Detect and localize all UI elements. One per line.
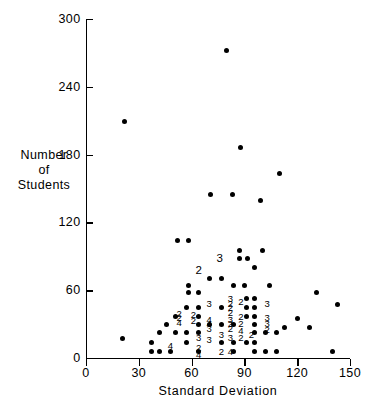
data-point <box>314 290 319 295</box>
y-axis-title-line-3: Students <box>6 178 82 193</box>
x-tick-label-30: 30 <box>131 367 146 380</box>
y-tick-label-240: 240 <box>58 81 80 94</box>
data-point <box>208 192 213 197</box>
x-tick-120: 120 <box>297 359 298 366</box>
y-tick-label-120: 120 <box>58 216 80 229</box>
overlap-count-label: 2 <box>191 316 196 326</box>
data-point <box>244 305 249 310</box>
data-point <box>186 238 191 243</box>
overlap-count-label: 4 <box>228 348 233 358</box>
x-tick-0: 0 <box>86 359 87 366</box>
data-point <box>263 349 268 354</box>
data-point <box>330 349 335 354</box>
data-point <box>277 171 282 176</box>
overlap-count-label: 2 <box>265 325 270 335</box>
data-point <box>274 330 279 335</box>
x-tick-label-90: 90 <box>237 367 252 380</box>
data-point <box>242 283 247 288</box>
data-point <box>184 330 189 335</box>
y-tick-label-180: 180 <box>58 148 80 161</box>
y-tick-120: 120 <box>86 222 93 223</box>
data-point <box>307 325 312 330</box>
x-tick-label-150: 150 <box>339 367 361 380</box>
data-point <box>244 296 249 301</box>
y-axis-title-line-2: of <box>6 163 82 178</box>
y-tick-label-0: 0 <box>73 352 80 365</box>
data-point <box>196 314 201 319</box>
data-point <box>164 322 169 327</box>
plot-area: 060120180240300 0306090120150 3233222232… <box>86 19 350 358</box>
overlap-count-label: 3 <box>265 299 270 309</box>
data-point <box>252 349 257 354</box>
data-point <box>252 314 257 319</box>
overlap-count-label: 3 <box>219 331 224 341</box>
scatter-plot-figure: Number of Students Standard Deviation 06… <box>0 0 366 406</box>
data-point <box>219 305 224 310</box>
data-point <box>196 322 201 327</box>
overlap-count-label: 2 <box>195 265 201 277</box>
data-point <box>186 283 191 288</box>
overlap-count-label: 3 <box>207 299 212 309</box>
y-tick-60: 60 <box>86 290 93 291</box>
y-tick-label-60: 60 <box>66 284 81 297</box>
data-point <box>196 305 201 310</box>
data-point <box>149 349 154 354</box>
x-tick-90: 90 <box>244 359 245 366</box>
data-point <box>238 145 243 150</box>
data-point <box>244 314 249 319</box>
overlap-count-label: 4 <box>177 318 182 328</box>
data-point <box>231 283 236 288</box>
data-point <box>186 290 191 295</box>
data-point <box>219 322 224 327</box>
data-point <box>149 340 154 345</box>
x-tick-label-60: 60 <box>184 367 199 380</box>
y-tick-label-300: 300 <box>58 13 80 26</box>
x-axis-line <box>86 358 350 359</box>
data-point <box>196 290 201 295</box>
data-point <box>122 119 127 124</box>
data-point <box>274 349 279 354</box>
x-tick-label-120: 120 <box>286 367 308 380</box>
data-point <box>184 305 189 310</box>
y-tick-240: 240 <box>86 87 93 88</box>
data-point <box>335 302 340 307</box>
data-point <box>252 322 257 327</box>
overlap-count-label: 2 <box>238 297 243 307</box>
data-point <box>260 248 265 253</box>
data-point <box>157 349 162 354</box>
x-tick-150: 150 <box>350 359 351 366</box>
data-point <box>175 238 180 243</box>
data-point <box>157 330 162 335</box>
data-point <box>237 256 242 261</box>
overlap-count-label: 2 <box>238 333 243 343</box>
data-point <box>252 265 257 270</box>
data-point <box>184 340 189 345</box>
data-point <box>237 248 242 253</box>
x-tick-60: 60 <box>192 359 193 366</box>
data-point <box>258 198 263 203</box>
data-point <box>282 325 287 330</box>
overlap-count-label: 4 <box>168 341 173 351</box>
data-point <box>267 283 272 288</box>
x-tick-30: 30 <box>139 359 140 366</box>
data-point <box>173 330 178 335</box>
overlap-count-label: 3 <box>207 324 212 334</box>
x-axis-title: Standard Deviation <box>86 384 350 398</box>
overlap-count-label: 3 <box>207 335 212 345</box>
data-point <box>230 192 235 197</box>
data-point <box>219 276 224 281</box>
data-point <box>245 256 250 261</box>
data-point <box>252 296 257 301</box>
data-point <box>295 316 300 321</box>
y-tick-300: 300 <box>86 19 93 20</box>
overlap-count-label: 4 <box>196 350 201 360</box>
y-tick-180: 180 <box>86 155 93 156</box>
overlap-count-label: 2 <box>219 348 224 358</box>
overlap-count-label: 3 <box>217 253 223 265</box>
data-point <box>207 276 212 281</box>
y-axis-line <box>86 19 87 358</box>
data-point <box>252 305 257 310</box>
overlap-count-label: 3 <box>196 333 201 343</box>
data-point <box>224 48 229 53</box>
overlap-count-label: 3 <box>228 333 233 343</box>
